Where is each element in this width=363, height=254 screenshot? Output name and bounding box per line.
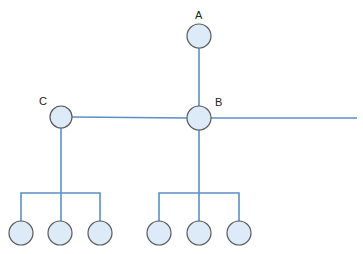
node-c1 bbox=[9, 221, 33, 245]
edges bbox=[21, 48, 357, 221]
network-diagram: A B C bbox=[0, 0, 363, 254]
node-b bbox=[187, 106, 211, 130]
label-b: B bbox=[215, 96, 222, 108]
node-b1 bbox=[147, 221, 171, 245]
label-a: A bbox=[195, 9, 203, 21]
label-c: C bbox=[39, 95, 47, 107]
node-c3 bbox=[88, 221, 112, 245]
node-c2 bbox=[48, 221, 72, 245]
node-a bbox=[187, 24, 211, 48]
node-b2 bbox=[187, 221, 211, 245]
nodes bbox=[9, 24, 251, 245]
node-c bbox=[50, 106, 72, 128]
edge-c-b bbox=[72, 117, 187, 118]
node-b3 bbox=[227, 221, 251, 245]
labels: A B C bbox=[39, 9, 222, 108]
